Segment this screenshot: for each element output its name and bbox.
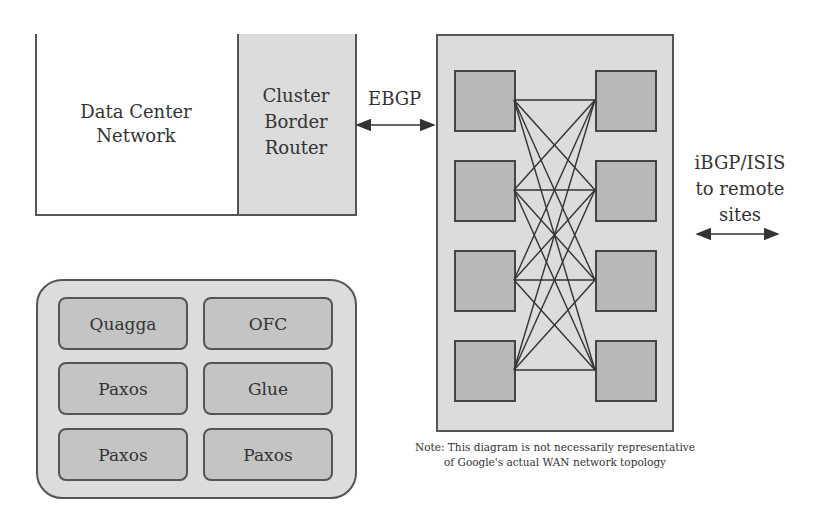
full-mesh-links <box>514 100 595 370</box>
remote-sites-label: iBGP/ISIS to remote sites <box>690 150 790 228</box>
remote-label-line1: iBGP/ISIS <box>690 150 790 176</box>
note-line2: of Google's actual WAN network topology <box>400 455 710 470</box>
service-paxos-1: Paxos <box>58 362 188 415</box>
diagram-note: Note: This diagram is not necessarily re… <box>400 440 710 470</box>
service-paxos-3: Paxos <box>203 428 333 481</box>
service-paxos-2: Paxos <box>58 428 188 481</box>
service-glue: Glue <box>203 362 333 415</box>
service-ofc: OFC <box>203 297 333 350</box>
remote-label-line2: to remote <box>690 176 790 202</box>
note-line1: Note: This diagram is not necessarily re… <box>400 440 710 455</box>
service-quagga: Quagga <box>58 297 188 350</box>
remote-label-line3: sites <box>690 202 790 228</box>
